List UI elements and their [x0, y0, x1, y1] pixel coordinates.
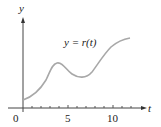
curve-label: y = r(t) — [64, 36, 96, 48]
x-axis-arrow-icon — [141, 106, 147, 110]
x-axis-label: t — [148, 102, 151, 114]
tick-label-0: 0 — [13, 112, 19, 124]
y-axis-label: y — [19, 2, 24, 14]
tick-label-10: 10 — [107, 112, 118, 124]
tick-label-5: 5 — [65, 112, 71, 124]
chart-canvas — [0, 0, 161, 127]
y-axis-arrow-icon — [21, 17, 25, 23]
